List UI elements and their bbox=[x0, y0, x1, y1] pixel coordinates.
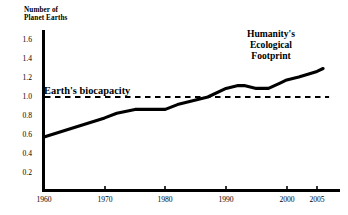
x-tick-label-1960: 1960 bbox=[27, 196, 61, 204]
y-tick-label-0-4: 0.4 bbox=[14, 150, 32, 158]
y-tick-label-0-8: 0.8 bbox=[14, 112, 32, 120]
x-tick-label-1990: 1990 bbox=[209, 196, 243, 204]
y-tick-label-0-6: 0.6 bbox=[14, 131, 32, 139]
y-tick-label-1-2: 1.2 bbox=[14, 74, 32, 82]
x-tick-label-1970: 1970 bbox=[88, 196, 122, 204]
y-tick-label-0-2: 0.2 bbox=[14, 169, 32, 177]
y-tick-label-1-0: 1.0 bbox=[14, 93, 32, 101]
biocapacity-annotation-label: Earth's biocapacity bbox=[44, 85, 130, 97]
y-tick-label-1-4: 1.4 bbox=[14, 55, 32, 63]
x-tick-label-1980: 1980 bbox=[148, 196, 182, 204]
footprint-annotation-label: Humanity's Ecological Footprint bbox=[229, 28, 313, 62]
y-tick-label-1-6: 1.6 bbox=[14, 36, 32, 44]
x-tick-label-2000: 2000 bbox=[270, 196, 304, 204]
y-axis-title: Number of Planet Earths bbox=[24, 6, 67, 23]
ecological-footprint-chart: Number of Planet Earths 1.6 1.4 1.2 1.0 … bbox=[0, 0, 348, 215]
footprint-series-line bbox=[44, 69, 323, 137]
x-tick-label-2005: 2005 bbox=[300, 196, 334, 204]
